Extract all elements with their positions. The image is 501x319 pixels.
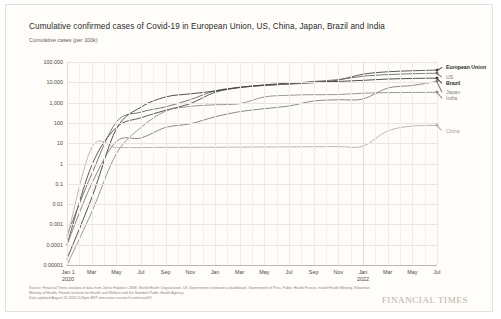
x-tick-label: Jan2022 — [357, 269, 369, 283]
gridline-vertical — [240, 62, 241, 265]
series-label-european-union: European Union — [446, 64, 486, 70]
gridline-vertical-minor — [227, 62, 228, 265]
x-tick-label: May — [259, 269, 269, 276]
gridline-vertical-minor — [277, 62, 278, 265]
gridline-vertical-minor — [375, 62, 376, 265]
chart-card: Cumulative confirmed cases of Covid-19 i… — [5, 4, 493, 312]
gridline-vertical — [166, 62, 167, 265]
plot-area — [67, 62, 437, 265]
y-tick-label: 0.001 — [50, 221, 64, 227]
x-tick-label: Mar — [383, 269, 392, 276]
x-axis-line — [67, 265, 437, 266]
y-tick-label: 100 — [54, 120, 63, 126]
y-axis-labels: 100,00010,0001,0001001010.10.010.0010.00… — [6, 62, 63, 265]
gridline-vertical — [363, 62, 364, 265]
gridline-vertical — [92, 62, 93, 265]
x-tick-label: May — [407, 269, 417, 276]
x-tick-label: Sep — [309, 269, 319, 276]
gridline-vertical — [264, 62, 265, 265]
x-tick-label: Jul — [138, 269, 145, 276]
gridline-vertical — [67, 62, 68, 265]
gridline-vertical — [215, 62, 216, 265]
updated-text: Data updated August 20 2022 4:43pm BST i… — [29, 296, 379, 301]
y-tick-label: 0.01 — [53, 201, 64, 207]
series-label-china: China — [446, 128, 460, 134]
y-tick-label: 10 — [57, 140, 63, 146]
gridline-vertical-minor — [129, 62, 130, 265]
gridline-vertical-minor — [301, 62, 302, 265]
y-tick-label: 0.00001 — [44, 262, 64, 268]
source-text: Source: Financial Times analysis of data… — [29, 286, 379, 296]
chart-subtitle: Cumulative cases (per 100k) — [29, 37, 98, 43]
gridline-vertical — [190, 62, 191, 265]
gridline-vertical — [338, 62, 339, 265]
gridline-vertical-minor — [178, 62, 179, 265]
gridline-vertical — [388, 62, 389, 265]
gridline-vertical-minor — [252, 62, 253, 265]
gridline-vertical-minor — [425, 62, 426, 265]
x-tick-label: May — [111, 269, 121, 276]
y-tick-label: 0.0001 — [47, 242, 64, 248]
x-tick-label: Jan — [211, 269, 220, 276]
gridline-vertical-minor — [400, 62, 401, 265]
gridline-vertical-minor — [153, 62, 154, 265]
gridline-vertical-minor — [104, 62, 105, 265]
series-label-brazil: Brazil — [446, 80, 460, 86]
gridline-vertical-minor — [203, 62, 204, 265]
y-tick-label: 0.1 — [56, 181, 64, 187]
footer-source: Source: Financial Times analysis of data… — [29, 286, 379, 302]
gridline-vertical — [289, 62, 290, 265]
gridline-vertical-minor — [351, 62, 352, 265]
y-tick-label: 10,000 — [47, 79, 64, 85]
gridline-vertical-minor — [79, 62, 80, 265]
y-tick-label: 1,000 — [50, 100, 64, 106]
gridline-vertical — [141, 62, 142, 265]
ft-logo: FINANCIAL TIMES — [382, 295, 468, 305]
x-tick-label: Mar — [87, 269, 96, 276]
x-tick-label: Nov — [334, 269, 344, 276]
gridline-vertical — [412, 62, 413, 265]
gridline-vertical — [314, 62, 315, 265]
y-tick-label: 100,000 — [44, 59, 64, 65]
x-tick-label: Sep — [161, 269, 171, 276]
gridline-vertical — [116, 62, 117, 265]
x-tick-label: Jan 12020 — [61, 269, 74, 283]
screenshot-root: Cumulative confirmed cases of Covid-19 i… — [0, 0, 501, 319]
gridline-vertical-minor — [326, 62, 327, 265]
y-tick-label: 1 — [60, 161, 63, 167]
x-tick-label: Jul — [434, 269, 441, 276]
x-tick-label: Mar — [235, 269, 244, 276]
x-tick-label: Jul — [286, 269, 293, 276]
x-tick-label: Nov — [186, 269, 196, 276]
page-title: Cumulative confirmed cases of Covid-19 i… — [29, 22, 385, 31]
series-label-india: India — [446, 95, 457, 101]
